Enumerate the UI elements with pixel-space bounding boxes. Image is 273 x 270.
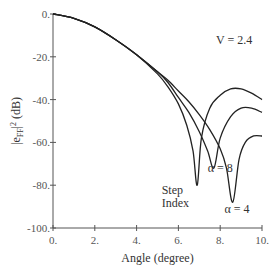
annotation: α = 8 — [208, 161, 233, 175]
y-tick-label: -20. — [33, 51, 51, 63]
y-axis-label: |eFF|2 (dB) — [9, 97, 25, 145]
annotation: Index — [162, 196, 189, 210]
x-tick-label: 2. — [91, 234, 100, 246]
y-tick-label: -40. — [33, 94, 51, 106]
y-tick-label: -60. — [33, 136, 51, 148]
y-tick-label: -80. — [33, 179, 51, 191]
y-tick-label: 0. — [42, 8, 51, 20]
annotation: V = 2.4 — [216, 33, 252, 47]
x-tick-label: 10. — [255, 234, 269, 246]
x-tick-label: 4. — [132, 234, 141, 246]
y-tick-label: -100. — [27, 222, 50, 234]
annotation: α = 4 — [224, 202, 249, 216]
x-tick-label: 8. — [216, 234, 225, 246]
chart: 0.-20.-40.-60.-80.-100.0.2.4.6.8.10.Angl… — [0, 0, 273, 270]
x-tick-label: 0. — [49, 234, 58, 246]
x-tick-label: 6. — [174, 234, 183, 246]
x-axis-label: Angle (degree) — [121, 251, 193, 265]
